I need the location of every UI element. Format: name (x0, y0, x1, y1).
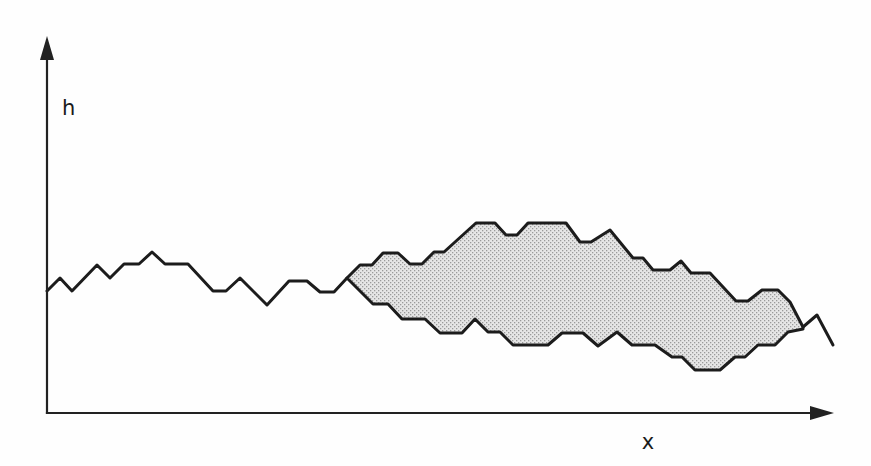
x-axis-arrowhead-icon (810, 406, 834, 420)
interface-path (47, 252, 347, 305)
droplet-group (347, 223, 803, 370)
y-axis-arrowhead-icon (40, 36, 54, 60)
y-axis-label: h (62, 96, 75, 120)
droplet-region (347, 223, 803, 370)
figure: h x (0, 0, 871, 466)
figure-canvas: h x (0, 0, 871, 466)
interface-tail-path (803, 315, 833, 345)
x-axis-label: x (642, 430, 654, 454)
